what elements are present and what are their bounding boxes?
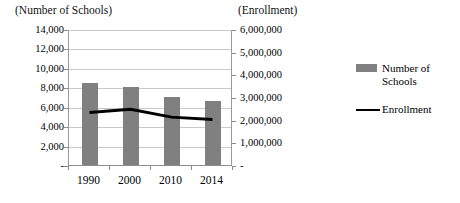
- left-tick-label: 4,000: [4, 121, 64, 132]
- right-tick-label: 6,000,000: [240, 24, 306, 35]
- enrollment-line: [90, 109, 213, 119]
- left-tick-label: 8,000: [4, 82, 64, 93]
- left-axis-title: (Number of Schools): [15, 4, 112, 17]
- x-tick-mark: [150, 166, 151, 170]
- x-axis-label: 2010: [149, 174, 193, 187]
- plot-area: [68, 30, 232, 166]
- right-tick-label: 5,000,000: [240, 47, 306, 58]
- x-axis-label: 2000: [108, 174, 152, 187]
- left-tick-label: 10,000: [4, 63, 64, 74]
- x-axis-label: 2014: [190, 174, 234, 187]
- right-tick-label: 2,000,000: [240, 115, 306, 126]
- right-axis-title: (Enrollment): [238, 4, 297, 17]
- left-tick-label: 14,000: [4, 24, 64, 35]
- line-series: [69, 31, 233, 167]
- x-tick-mark: [191, 166, 192, 170]
- x-tick-mark: [109, 166, 110, 170]
- legend-label-number-of-schools: Number of Schools: [382, 62, 456, 87]
- left-tick-label: -: [4, 160, 64, 171]
- x-tick-mark: [232, 166, 233, 170]
- right-tick-label: -: [240, 160, 306, 171]
- legend-line-swatch-icon: [356, 109, 380, 111]
- right-tick-label: 1,000,000: [240, 137, 306, 148]
- legend-label-enrollment: Enrollment: [382, 103, 432, 116]
- x-tick-mark: [68, 166, 69, 170]
- left-tick-label: 2,000: [4, 141, 64, 152]
- legend-bar-swatch-icon: [356, 64, 377, 72]
- legend-item-number-of-schools: Number of Schools: [356, 62, 456, 87]
- left-tick-label: 6,000: [4, 102, 64, 113]
- right-tick-label: 4,000,000: [240, 69, 306, 80]
- x-axis-label: 1990: [67, 174, 111, 187]
- left-tick-label: 12,000: [4, 43, 64, 54]
- right-tick-label: 3,000,000: [240, 92, 306, 103]
- chart-legend: Number of Schools Enrollment: [356, 62, 456, 132]
- legend-item-enrollment: Enrollment: [356, 103, 456, 116]
